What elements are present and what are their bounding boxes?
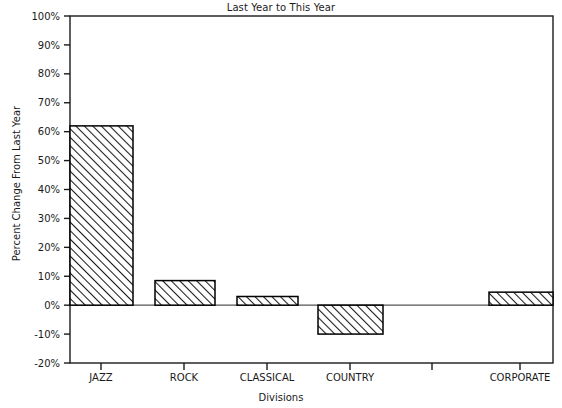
bar-country: [318, 305, 383, 334]
y-tick-label: 40%: [38, 184, 60, 195]
bar-series: [70, 126, 553, 334]
y-tick-label: 60%: [38, 126, 60, 137]
bar-chart-figure: Last Year to This Year Percent Change Fr…: [0, 0, 562, 408]
x-tick-label: CORPORATE: [490, 372, 551, 383]
y-tick-label: 10%: [38, 271, 60, 282]
y-axis-ticks: 100%90%80%70%60%50%40%30%20%10%0%-10%-20…: [31, 11, 70, 369]
y-tick-label: 90%: [38, 40, 60, 51]
x-tick-label: COUNTRY: [326, 372, 375, 383]
y-tick-label: 50%: [38, 155, 60, 166]
bar-rock: [155, 281, 215, 306]
y-tick-label: -20%: [34, 358, 60, 369]
bar-classical: [237, 296, 298, 305]
bar-jazz: [70, 126, 133, 305]
bar-corporate: [489, 292, 553, 305]
y-tick-label: 20%: [38, 242, 60, 253]
x-tick-label: JAZZ: [88, 372, 112, 383]
y-tick-label: 100%: [31, 11, 60, 22]
plot-frame: [70, 16, 553, 363]
x-tick-label: CLASSICAL: [240, 372, 295, 383]
y-tick-label: -10%: [34, 329, 60, 340]
plot-area: 100%90%80%70%60%50%40%30%20%10%0%-10%-20…: [0, 0, 562, 408]
x-axis-ticks: JAZZROCKCLASSICALCOUNTRYCORPORATE: [88, 363, 550, 383]
y-tick-label: 70%: [38, 97, 60, 108]
y-tick-label: 80%: [38, 68, 60, 79]
y-tick-label: 30%: [38, 213, 60, 224]
y-tick-label: 0%: [44, 300, 60, 311]
x-tick-label: ROCK: [170, 372, 199, 383]
